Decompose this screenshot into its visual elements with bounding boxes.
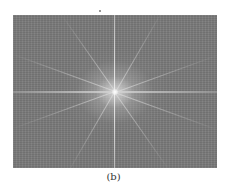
stray-mark	[99, 10, 101, 12]
figure-caption: (b)	[0, 171, 227, 182]
fourier-spectrum-image	[13, 15, 217, 168]
dc-component	[112, 89, 118, 95]
